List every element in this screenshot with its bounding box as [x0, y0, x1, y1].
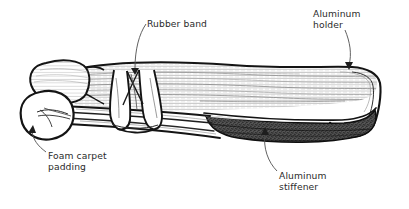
- callout-label-aluminum-holder: Aluminum holder: [313, 8, 361, 30]
- illustration-drawing: [0, 0, 409, 209]
- callout-label-foam-carpet-padding: Foam carpet padding: [48, 150, 107, 172]
- callout-label-rubber-band: Rubber band: [147, 18, 207, 29]
- callout-label-aluminum-stiffener: Aluminum stiffener: [279, 170, 327, 192]
- figure-canvas: Rubber band Aluminum holder Foam carpet …: [0, 0, 409, 209]
